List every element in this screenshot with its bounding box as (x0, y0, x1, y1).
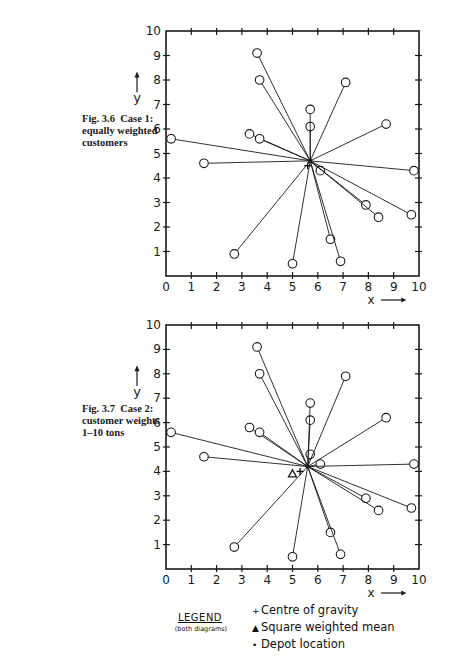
customer-marker (407, 504, 416, 513)
customer-marker (253, 343, 262, 352)
plus-icon: + (252, 603, 261, 619)
x-tick-label: 2 (213, 573, 221, 587)
y-tick-label: 4 (153, 464, 161, 478)
y-tick-label: 9 (153, 342, 161, 356)
legend-item-depot-location: •Depot location (252, 636, 395, 653)
x-arrowhead-icon (401, 591, 406, 596)
plot-frame (166, 325, 419, 569)
y-tick-label: 2 (153, 513, 161, 527)
route-line (308, 467, 339, 551)
customer-marker (167, 428, 176, 437)
customer-marker (306, 399, 315, 408)
triangle-icon: ▲ (252, 620, 261, 636)
x-tick-label: 1 (187, 573, 195, 587)
route-line (262, 378, 308, 467)
route-line (308, 467, 408, 507)
chart-case-2: 01234567891012345678910xy (0, 0, 451, 672)
customer-marker (382, 413, 391, 422)
dot-icon: • (252, 637, 261, 653)
route-line (308, 467, 362, 497)
x-tick-label: 6 (314, 573, 322, 587)
x-tick-label: 0 (162, 573, 170, 587)
legend-items: +Centre of gravity ▲Square weighted mean… (252, 602, 395, 653)
x-tick-label: 3 (238, 573, 246, 587)
route-line (175, 433, 307, 466)
x-tick-label: 4 (263, 573, 271, 587)
x-tick-label: 5 (289, 573, 297, 587)
customer-marker (255, 370, 264, 379)
y-tick-label: 6 (153, 416, 161, 430)
x-tick-label: 10 (411, 573, 426, 587)
legend-item-square-weighted-mean: ▲Square weighted mean (252, 619, 395, 636)
customer-marker (230, 543, 239, 552)
customer-marker (306, 416, 315, 425)
y-tick-label: 10 (146, 318, 161, 332)
legend-item-centre-of-gravity: +Centre of gravity (252, 602, 395, 619)
customer-marker (245, 423, 254, 432)
legend-title: LEGEND (160, 612, 240, 623)
customer-marker (341, 372, 350, 381)
customer-marker (410, 460, 419, 469)
y-axis-label: y (133, 384, 141, 399)
customer-marker (288, 553, 297, 562)
route-line (308, 467, 375, 509)
customer-marker (255, 428, 264, 437)
customer-marker (374, 506, 383, 515)
customer-marker (336, 550, 345, 559)
customer-marker (200, 452, 209, 461)
y-tick-label: 1 (153, 538, 161, 552)
x-tick-label: 9 (390, 573, 398, 587)
legend-label: Centre of gravity (261, 603, 358, 617)
y-tick-label: 5 (153, 440, 161, 454)
x-tick-label: 7 (339, 573, 347, 587)
y-arrowhead-icon (135, 365, 140, 371)
route-line (308, 420, 383, 467)
customer-marker (316, 460, 325, 469)
legend-subtitle: (both diagrams) (158, 625, 244, 633)
y-tick-label: 8 (153, 367, 161, 381)
x-tick-label: 8 (365, 573, 373, 587)
route-line (237, 467, 307, 544)
y-tick-label: 3 (153, 489, 161, 503)
depot-location-icon (305, 464, 309, 468)
route-line (208, 457, 307, 466)
x-axis-label: x (367, 586, 374, 600)
legend-label: Depot location (261, 637, 345, 651)
legend-label: Square weighted mean (261, 620, 395, 634)
square-weighted-mean-icon (289, 470, 297, 477)
y-tick-label: 7 (153, 391, 161, 405)
